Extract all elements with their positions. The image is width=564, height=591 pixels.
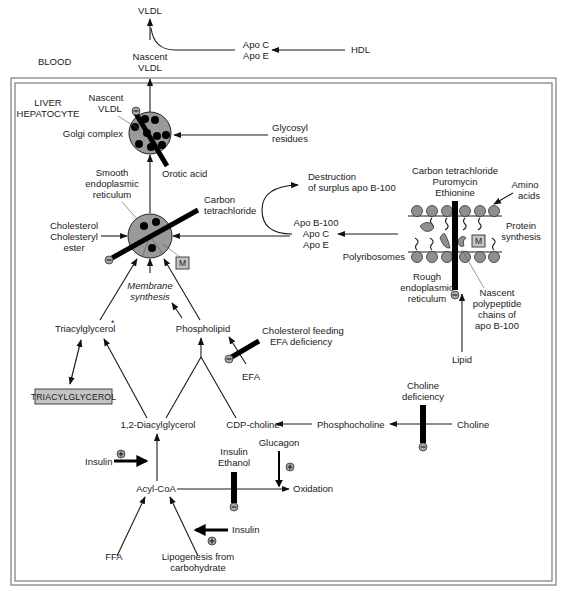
- blood-nascent-vldl-line2: VLDL: [138, 62, 162, 73]
- efa-minus-sign: [225, 355, 233, 363]
- lipogenesis-plus-sign: [208, 537, 216, 545]
- smooth-er-pointer: [122, 202, 138, 220]
- rough-er-line2: endoplasmic: [400, 282, 454, 293]
- cholesterol-feeding-bar: [230, 341, 259, 358]
- golgi-nascent-line2: VLDL: [98, 103, 122, 114]
- inhibitor-insulin-label: Insulin: [220, 446, 247, 457]
- cholesterol-line2: Cholesteryl: [50, 231, 98, 242]
- triacylglycerol-label: Triacylglycerol: [55, 323, 115, 334]
- glycosyl-line2: residues: [272, 133, 308, 144]
- ffa-label: FFA: [105, 551, 123, 562]
- svg-text:M: M: [179, 258, 186, 268]
- insulin-plus-sign: [117, 450, 125, 458]
- glycosyl-line1: Glycosyl: [272, 122, 308, 133]
- oxidation-minus-sign: [230, 503, 238, 511]
- lipogenesis-arrow: [170, 497, 198, 556]
- destruction-line2: of surplus apo B-100: [308, 182, 396, 193]
- cdp-branch-line: [201, 357, 236, 418]
- cholesterol-line1: Cholesterol: [50, 220, 98, 231]
- vldl-label: VLDL: [138, 5, 162, 16]
- polyribosomes-label: Polyribosomes: [343, 251, 406, 262]
- vldl-pathway-diagram: BLOOD LIVER HEPATOCYTE VLDL Nascent VLDL…: [0, 0, 564, 591]
- carbon-tetrachloride-line2: tetrachloride: [204, 205, 256, 216]
- ffa-arrow: [117, 497, 145, 556]
- efa-deficiency-label: EFA deficiency: [270, 336, 333, 347]
- rer-inhibitor-line3: Ethionine: [435, 187, 475, 198]
- cdp-choline-label: CDP-choline: [226, 419, 279, 430]
- amino-acids-line1: Amino: [512, 179, 539, 190]
- svg-text:TRIACYLGLYCEROL: TRIACYLGLYCEROL: [31, 392, 116, 402]
- dag-branch-line: [166, 357, 201, 418]
- apo-e-label: Apo E: [303, 239, 329, 250]
- dag-to-tg-arrow: [104, 339, 147, 418]
- nascent-poly-line2: polypeptide: [473, 298, 522, 309]
- membrane-synthesis-line2: synthesis: [130, 291, 170, 302]
- smooth-er-line2: endoplasmic: [85, 178, 139, 189]
- rer-inhibitor-line2: Puromycin: [433, 176, 478, 187]
- smooth-er-line1: Smooth: [96, 167, 129, 178]
- nascent-poly-line4: apo B-100: [475, 320, 519, 331]
- lipid-label: Lipid: [452, 354, 472, 365]
- rough-er-line1: Rough: [413, 271, 441, 282]
- hdl-label: HDL: [351, 44, 370, 55]
- orotic-acid-label: Orotic acid: [162, 168, 207, 179]
- cholesterol-line3: ester: [63, 242, 84, 253]
- cholesterol-feeding-label: Cholesterol feeding: [262, 325, 344, 336]
- choline-label: Choline: [457, 419, 489, 430]
- insulin-lipogenesis-label: Insulin: [232, 524, 259, 535]
- smooth-er-organelle: [112, 210, 198, 258]
- golgi-complex-label: Golgi complex: [63, 128, 123, 139]
- glucagon-plus-sign: [286, 463, 294, 471]
- nascent-poly-line3: chains of: [478, 309, 516, 320]
- liver-label-line2: HEPATOCYTE: [17, 108, 80, 119]
- apo-c-label: Apo C: [303, 228, 330, 239]
- blood-apo-c: Apo C: [243, 39, 270, 50]
- inhibitor-ethanol-label: Ethanol: [218, 457, 250, 468]
- lipogenesis-line1: Lipogenesis from: [162, 551, 234, 562]
- protein-synthesis-line1: Protein: [506, 220, 536, 231]
- amino-acids-arrow: [494, 193, 513, 204]
- nascent-poly-line1: Nascent: [480, 287, 515, 298]
- oxidation-label: Oxidation: [293, 483, 333, 494]
- apo-b100-label: Apo B-100: [294, 217, 339, 228]
- carbon-tetrachloride-line1: Carbon: [204, 194, 235, 205]
- blood-apo-e: Apo E: [243, 50, 269, 61]
- protein-synthesis-line2: synthesis: [501, 231, 541, 242]
- amino-acids-line2: acids: [518, 190, 540, 201]
- apo-transfer-curve: [151, 28, 235, 50]
- insulin-stim-label: Insulin: [85, 456, 112, 467]
- phosphocholine-label: Phosphocholine: [317, 419, 385, 430]
- efa-label: EFA: [242, 371, 261, 382]
- glucagon-label: Glucagon: [259, 437, 300, 448]
- destruction-line1: Destruction: [308, 171, 356, 182]
- golgi-nascent-line1: Nascent: [89, 92, 124, 103]
- blood-nascent-vldl-line1: Nascent: [133, 51, 168, 62]
- rough-er-line3: reticulum: [408, 293, 447, 304]
- blood-region-label: BLOOD: [38, 56, 71, 67]
- choline-deficiency-line1: Choline: [407, 380, 439, 391]
- svg-text:M: M: [475, 236, 482, 246]
- ser-m-box: M: [176, 257, 189, 269]
- golgi-minus-sign: [132, 107, 140, 115]
- tg-storage-arrow[interactable]: [70, 340, 81, 384]
- diacylglycerol-label: 1,2-Diacylglycerol: [121, 419, 196, 430]
- phospholipid-label: Phospholipid: [176, 323, 230, 334]
- rer-inhibitor-line1: Carbon tetrachloride: [412, 165, 498, 176]
- liver-label-line1: LIVER: [34, 97, 62, 108]
- acyl-coa-label: Acyl-CoA: [136, 483, 176, 494]
- phospholipid-to-membrane-arrow: [172, 303, 182, 318]
- ser-minus-sign: [105, 256, 113, 264]
- choline-minus-sign: [419, 443, 427, 451]
- rer-m-box: M: [472, 235, 485, 247]
- blood-vldl-group: VLDL Nascent VLDL Apo C Apo E HDL: [133, 5, 370, 73]
- membrane-synthesis-line1: Membrane: [127, 280, 172, 291]
- lipogenesis-line2: carbohydrate: [170, 562, 225, 573]
- choline-deficiency-line2: deficiency: [402, 391, 444, 402]
- triacylglycerol-storage-box: TRIACYLGLYCEROL: [31, 389, 116, 404]
- smooth-er-line3: reticulum: [93, 189, 132, 200]
